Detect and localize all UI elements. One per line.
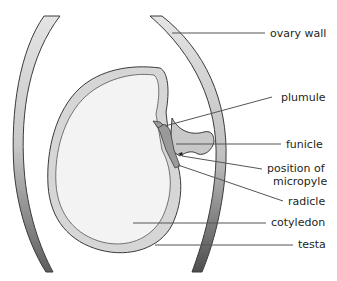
label-plumule: plumule	[281, 91, 326, 104]
label-funicle: funicle	[286, 138, 323, 151]
label-micropyle: micropyle	[273, 175, 327, 188]
label-ovary-wall: ovary wall	[270, 27, 326, 40]
funicle-shape	[170, 118, 214, 156]
seed-diagram: ovary wall plumule funicle position of m…	[0, 0, 337, 281]
label-cotyledon: cotyledon	[271, 216, 325, 229]
label-radicle: radicle	[288, 195, 325, 208]
label-testa: testa	[298, 238, 326, 251]
label-position-of: position of	[267, 162, 326, 175]
